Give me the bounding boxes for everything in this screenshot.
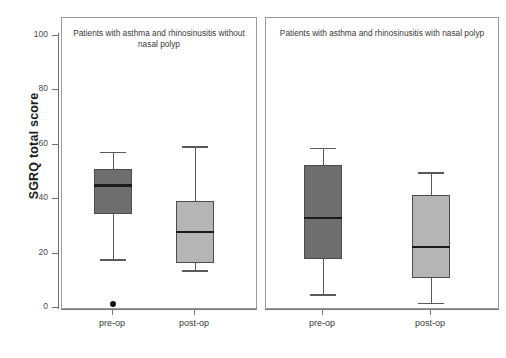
median-line [176,231,214,233]
x-axis-tick-label: pre-op [309,318,335,328]
y-axis-line [58,33,59,309]
whisker-cap-lower [418,303,444,305]
median-line [412,246,450,248]
whisker-lower [195,263,196,270]
whisker-upper [323,148,324,166]
whisker-cap-upper [418,172,444,174]
y-axis-tick: 20 [52,253,59,254]
whisker-cap-upper [100,152,126,154]
y-axis-tick-label: 0 [43,301,48,311]
whisker-lower [113,214,114,259]
whisker-cap-lower [182,270,208,272]
x-axis-tick-label: pre-op [99,318,125,328]
whisker-cap-lower [310,294,336,296]
y-axis-tick: 100 [52,35,59,36]
x-axis-tick-label: post-op [415,318,445,328]
x-axis-tick [430,309,431,315]
plot-area-left [62,18,256,308]
y-axis-tick-label: 40 [39,192,48,202]
median-line [304,217,342,219]
panel-without-nasal-polyp: Patients with asthma and rhinosinusitis … [61,17,257,309]
y-axis-tick-label: 80 [39,83,48,93]
panel-with-nasal-polyp: Patients with asthma and rhinosinusitis … [265,17,499,309]
box-iqr [304,165,342,259]
whisker-lower [431,278,432,302]
box-iqr [412,195,450,278]
x-axis-tick [194,309,195,315]
plot-area-right [266,18,498,308]
whisker-cap-lower [100,259,126,261]
whisker-upper [113,152,114,170]
whisker-upper [195,146,196,200]
x-axis-tick [112,309,113,315]
x-axis-line [265,309,499,310]
median-line [94,184,132,186]
box-iqr [94,169,132,214]
y-axis-tick: 0 [52,307,59,308]
x-axis-tick-label: post-op [179,318,209,328]
y-axis-tick: 40 [52,198,59,199]
y-axis-tick: 80 [52,89,59,90]
y-axis-tick-label: 60 [39,138,48,148]
whisker-cap-upper [182,146,208,148]
x-axis-tick [322,309,323,315]
whisker-upper [431,172,432,195]
x-axis-line [61,309,257,310]
whisker-cap-upper [310,148,336,150]
y-axis-tick-label: 20 [39,247,48,257]
y-axis-tick: 60 [52,144,59,145]
whisker-lower [323,259,324,294]
outlier-point [110,301,116,307]
y-axis-tick-label: 100 [34,29,48,39]
boxplot-figure: SGRQ total score 020406080100 Patients w… [0,0,506,358]
